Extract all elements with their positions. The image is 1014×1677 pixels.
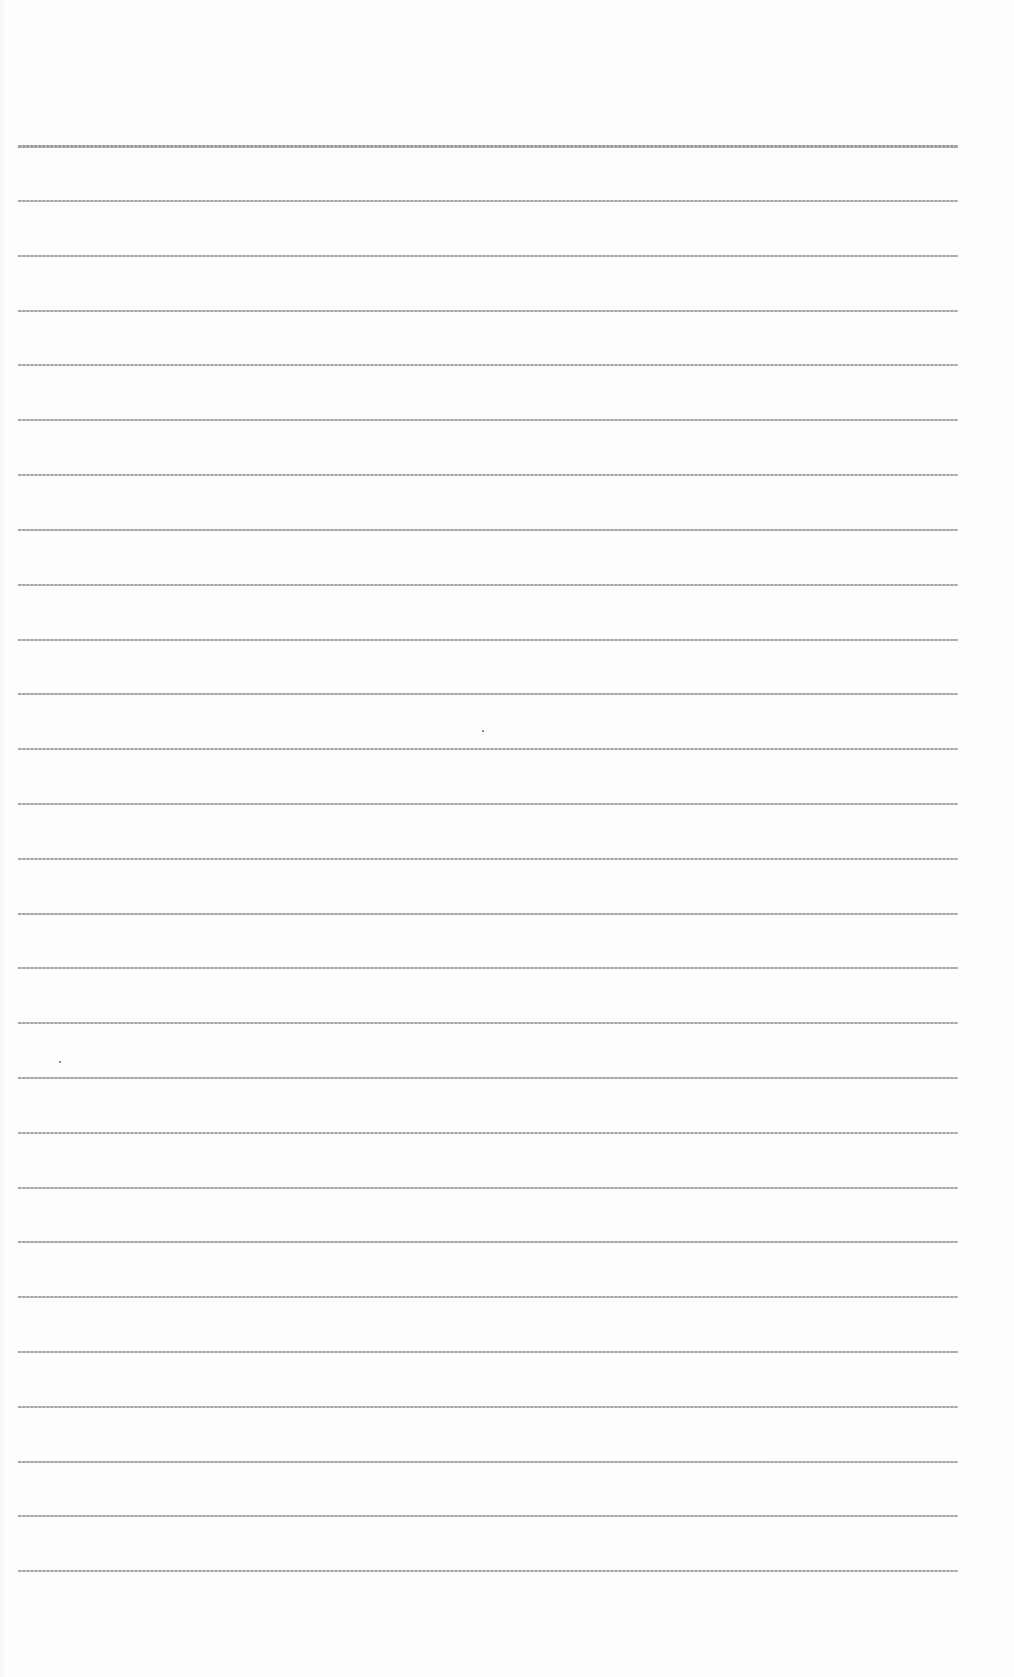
ruled-line: [18, 255, 958, 257]
ruled-line: [18, 1296, 958, 1298]
ruled-line: [18, 1022, 958, 1024]
paper-speck: [59, 1061, 61, 1063]
ruled-line: [18, 967, 958, 969]
ruled-line: [18, 913, 958, 915]
ruled-line: [18, 1077, 958, 1079]
lined-paper-sheet: [0, 0, 1014, 1677]
ruled-line: [18, 1241, 958, 1243]
ruled-line: [18, 584, 958, 586]
ruled-line: [18, 419, 958, 421]
ruled-line: [18, 748, 958, 750]
ruled-line: [18, 1570, 958, 1572]
ruled-line: [18, 693, 958, 695]
ruled-line: [18, 364, 958, 366]
ruled-line: [18, 1515, 958, 1517]
ruled-line: [18, 310, 958, 312]
ruled-line: [18, 1132, 958, 1134]
ruled-line: [18, 1187, 958, 1189]
sheet-edge-shadow: [0, 0, 6, 1677]
ruled-line: [18, 474, 958, 476]
ruled-line: [18, 529, 958, 531]
ruled-line: [18, 145, 958, 148]
ruled-line: [18, 858, 958, 860]
ruled-line: [18, 200, 958, 202]
paper-speck: [482, 730, 484, 732]
ruled-line: [18, 1351, 958, 1353]
ruled-line: [18, 803, 958, 805]
ruled-line: [18, 1406, 958, 1408]
ruled-line: [18, 1461, 958, 1463]
ruled-line: [18, 639, 958, 641]
